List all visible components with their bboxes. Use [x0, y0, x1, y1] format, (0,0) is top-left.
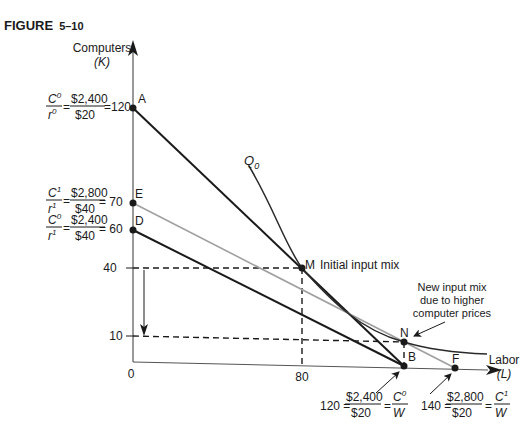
svg-text:$2,400: $2,400 [346, 390, 383, 404]
y-tick-40: 40 [103, 261, 117, 275]
y-tick-10: 10 [109, 329, 123, 343]
svg-text:$20: $20 [452, 406, 472, 420]
svg-text:$40: $40 [75, 229, 95, 243]
guide-lines [133, 268, 404, 366]
isocost-DB [133, 230, 404, 366]
svg-text:=: = [485, 399, 492, 413]
svg-text:W: W [393, 406, 406, 420]
y-axis-title: Computers [73, 41, 132, 55]
y-tick-D-formula: C0 r1 = $2,400 $40 = 60 [46, 212, 123, 243]
m-annotation: Initial input mix [320, 258, 399, 272]
label-B: B [408, 350, 416, 364]
svg-text:computer prices: computer prices [413, 307, 492, 319]
points [130, 105, 459, 372]
label-E: E [135, 187, 143, 201]
isocost-AB [133, 108, 404, 366]
svg-text:r0: r0 [48, 107, 57, 122]
x-axis-var: (L) [497, 367, 512, 381]
label-A: A [138, 92, 146, 106]
svg-text:New input mix: New input mix [417, 281, 487, 293]
svg-text:= 70: = 70 [99, 195, 123, 209]
figure-canvas: FIGURE5–10 Computers (K) Labor (L) C0 r0… [0, 0, 532, 431]
svg-text:W: W [495, 406, 508, 420]
svg-text:C0: C0 [48, 91, 62, 106]
svg-text:$2,400: $2,400 [71, 92, 108, 106]
x-axis [133, 362, 488, 370]
point-B [401, 363, 408, 370]
y-axis-var: (K) [94, 55, 110, 69]
x-tick-F-formula: 140 = $2,800 $20 = C1 W [421, 389, 510, 420]
label-D: D [135, 214, 144, 228]
svg-text:C0: C0 [393, 389, 407, 404]
svg-text:r1: r1 [48, 228, 56, 243]
svg-text:C1: C1 [48, 185, 61, 200]
svg-text:$20: $20 [351, 406, 371, 420]
isoquant-label: Q0 [244, 153, 259, 171]
label-N: N [400, 326, 409, 340]
x-axis-title: Labor [489, 353, 520, 367]
svg-text:=: = [384, 399, 391, 413]
origin-label: 0 [128, 367, 135, 381]
svg-text:=120: =120 [104, 100, 131, 114]
x-tick-80: 80 [295, 370, 309, 384]
svg-text:$20: $20 [75, 108, 95, 122]
point-A [130, 105, 137, 112]
figure-label: FIGURE5–10 [4, 18, 84, 33]
svg-text:due to higher: due to higher [420, 294, 485, 306]
n-pointer-arrow [414, 322, 445, 336]
svg-text:C1: C1 [495, 389, 508, 404]
y-tick-A-formula: C0 r0 = $2,400 $20 =120 [46, 91, 131, 122]
x-tick-B-formula: 120 = $2,400 $20 = C0 W [320, 389, 408, 420]
svg-text:C0: C0 [48, 212, 62, 227]
svg-text:=: = [63, 100, 70, 114]
n-annotation: New input mix due to higher computer pri… [413, 281, 492, 319]
label-F: F [452, 352, 459, 366]
svg-text:=: = [63, 194, 70, 208]
svg-text:$2,800: $2,800 [447, 390, 484, 404]
label-M: M [305, 258, 315, 272]
svg-text:=: = [63, 221, 70, 235]
svg-text:= 60: = 60 [99, 222, 123, 236]
